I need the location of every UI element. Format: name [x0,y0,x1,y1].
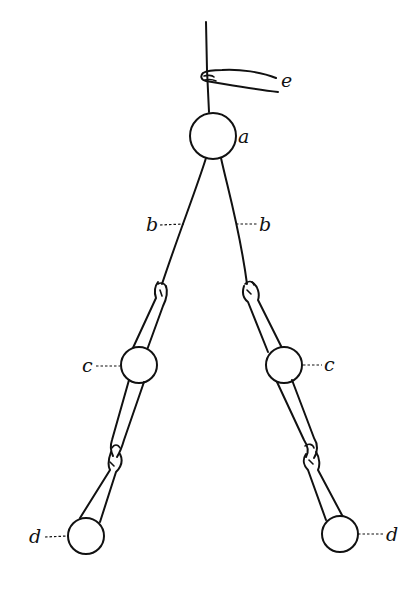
ball-c-left [121,347,157,383]
label-b-left: b [146,213,158,235]
arm-right-bottom [304,452,343,520]
label-b-right: b [259,213,271,235]
arm-left-bottom [80,452,122,522]
arm-left-lower [111,380,144,457]
arm-left-upper [132,282,167,350]
ball-d-left [68,518,104,554]
ball-a [190,113,236,159]
top-cord [206,22,209,112]
leader-d-left [45,536,68,537]
label-e: e [281,69,292,91]
label-c-left: c [82,354,93,376]
arm-right-lower [277,380,317,458]
label-d-left: d [29,525,41,547]
cord-b-right [221,158,247,284]
label-a: a [238,125,249,147]
leader-b-left [160,224,184,225]
ball-d-right [322,516,358,552]
label-d-right: d [386,523,398,545]
ball-c-right [266,347,302,383]
suspension-diagram: e a b b c c d d [0,0,405,592]
cord-b-left [162,158,206,284]
hand-e [201,70,278,92]
label-c-right: c [324,353,335,375]
arm-right-upper [243,281,282,352]
